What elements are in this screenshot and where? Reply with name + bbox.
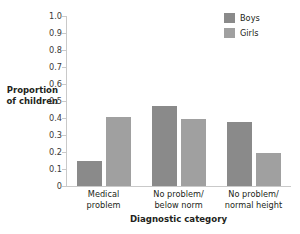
legend-item: Girls: [224, 26, 294, 39]
x-axis-category-label: Medicalproblem: [66, 189, 141, 210]
y-axis-tick-mark: [62, 169, 66, 170]
plot-area: [66, 16, 291, 186]
y-axis-tick-label: 0.2: [38, 148, 62, 156]
y-axis-tick-label: 0.4: [38, 114, 62, 122]
bar: [256, 153, 281, 186]
x-axis-category-label-line-2: below norm: [141, 200, 216, 211]
x-axis-line: [66, 186, 291, 187]
x-axis-category-label: No problem/below norm: [141, 189, 216, 210]
legend: BoysGirls: [224, 11, 294, 41]
y-axis-tick-mark: [62, 118, 66, 119]
y-axis-tick-label: 0.6: [38, 80, 62, 88]
y-axis-tick-labels: 1.00.90.80.70.60.50.40.30.20.10: [38, 0, 62, 234]
y-axis-tick-mark: [62, 101, 66, 102]
y-axis-tick-mark: [62, 50, 66, 51]
legend-label: Boys: [240, 13, 260, 23]
legend-swatch-icon: [224, 28, 235, 38]
bar: [77, 161, 102, 186]
bars-layer: [66, 16, 291, 186]
x-axis-category-labels: MedicalproblemNo problem/below normNo pr…: [66, 189, 291, 213]
bar-chart: Proportion of children 1.00.90.80.70.60.…: [0, 0, 300, 234]
y-axis-tick-label: 0.5: [38, 97, 62, 105]
x-axis-title: Diagnostic category: [66, 214, 291, 224]
bar: [152, 106, 177, 186]
x-axis-category-label-line-1: Medical: [66, 189, 141, 200]
y-axis-tick-label: 0.3: [38, 131, 62, 139]
y-axis-tick-label: 0.7: [38, 63, 62, 71]
y-axis-tick-label: 0.1: [38, 165, 62, 173]
legend-label: Girls: [240, 28, 259, 38]
y-axis-tick-label: 1.0: [38, 12, 62, 20]
legend-swatch-icon: [224, 13, 235, 23]
bar: [227, 122, 252, 186]
bar: [181, 119, 206, 186]
y-axis-tick-mark: [62, 67, 66, 68]
y-axis-tick-mark: [62, 152, 66, 153]
y-axis-tick-mark: [62, 84, 66, 85]
x-axis-category-label: No problem/normal height: [216, 189, 291, 210]
y-axis-tick-label: 0: [38, 182, 62, 190]
bar: [106, 117, 131, 186]
y-axis-tick-mark: [62, 16, 66, 17]
x-axis-category-label-line-2: normal height: [216, 200, 291, 211]
y-axis-tick-mark: [62, 186, 66, 187]
y-axis-tick-label: 0.9: [38, 29, 62, 37]
y-axis-tick-mark: [62, 135, 66, 136]
legend-item: Boys: [224, 11, 294, 24]
x-axis-category-label-line-1: No problem/: [216, 189, 291, 200]
x-axis-category-label-line-2: problem: [66, 200, 141, 211]
y-axis-tick-mark: [62, 33, 66, 34]
y-axis-tick-label: 0.8: [38, 46, 62, 54]
x-axis-category-label-line-1: No problem/: [141, 189, 216, 200]
